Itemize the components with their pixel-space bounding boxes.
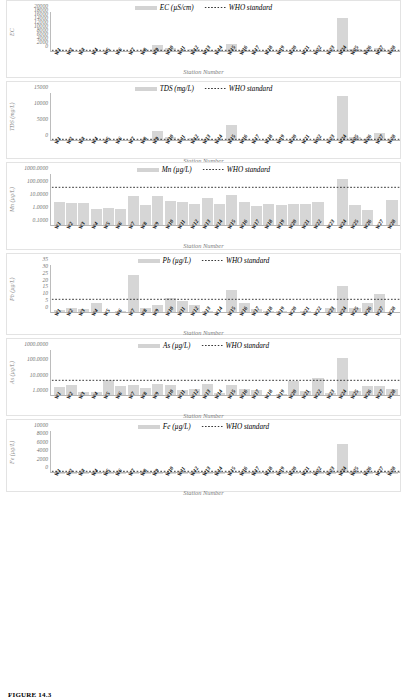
x-axis-title-ec: Station Number	[7, 59, 400, 75]
legend-entry-series: EC (µS/cm)	[135, 4, 194, 12]
legend-bar-swatch-icon	[138, 425, 160, 429]
y-tick-label: 6000	[37, 439, 48, 445]
y-tick-label: 0	[45, 464, 48, 470]
legend-dotted-line-icon	[201, 259, 223, 263]
y-tick-label: 4000	[37, 447, 48, 453]
x-label-spacer	[7, 226, 50, 233]
plot-canvas-as	[50, 350, 400, 396]
y-tick-label: 15000	[34, 84, 48, 90]
bar-group-mn	[51, 174, 400, 226]
x-label-spacer	[7, 313, 50, 320]
chart-legend-ec: EC (µS/cm)WHO standard	[7, 1, 400, 12]
y-tick-label: 35	[42, 256, 48, 262]
legend-entry-who: WHO standard	[201, 423, 269, 431]
legend-bar-swatch-icon	[135, 6, 157, 10]
y-tick-label: 0.1000	[33, 217, 48, 223]
x-axis-labels-pb: W1W2W3W4W5W6W7W8W9W10W11W12W13W14W15W16W…	[7, 313, 400, 320]
legend-entry-who: WHO standard	[202, 166, 270, 174]
legend-series-label: EC (µS/cm)	[160, 4, 194, 12]
y-axis-title-mn: Mn (µg/L)	[7, 174, 16, 226]
y-tick-label: 30	[42, 263, 48, 269]
legend-dotted-line-icon	[202, 168, 224, 172]
station-label-row: W1W2W3W4W5W6W7W8W9W10W11W12W13W14W15W16W…	[50, 226, 400, 233]
legend-who-label: WHO standard	[229, 85, 272, 93]
legend-bar-swatch-icon	[138, 344, 160, 348]
chart-panel-as: As (µg/L)WHO standardAs (µg/L)1.000010.0…	[6, 338, 401, 416]
y-axis-ticks-mn: 0.10001.000010.0000100.00001000.0000	[16, 174, 50, 226]
who-standard-line-pb	[51, 298, 400, 301]
chart-legend-fe: Fe (µg/L)WHO standard	[7, 420, 400, 431]
bar-group-pb	[51, 265, 400, 313]
legend-series-label: Pb (µg/L)	[163, 257, 191, 265]
x-axis-labels-as: W1W2W3W4W5W6W7W8W9W10W11W12W13W14W15W16W…	[7, 396, 400, 403]
legend-dotted-line-icon	[201, 344, 223, 348]
x-label-spacer	[7, 141, 50, 148]
y-tick-label: 1000.0000	[24, 165, 48, 171]
who-standard-line-mn	[51, 186, 400, 189]
legend-entry-who: WHO standard	[204, 4, 272, 12]
figure-page: EC (µS/cm)WHO standardEC0200040006000800…	[0, 0, 407, 697]
chart-legend-tds: TDS (mg/L)WHO standard	[7, 82, 400, 93]
bar-group-as	[51, 350, 400, 396]
station-label-row: W1W2W3W4W5W6W7W8W9W10W11W12W13W14W15W16W…	[50, 313, 400, 320]
y-tick-label: 10000	[34, 422, 48, 428]
y-axis-title-as: As (µg/L)	[7, 350, 16, 396]
legend-series-label: Fe (µg/L)	[163, 423, 191, 431]
legend-bar-swatch-icon	[135, 87, 157, 91]
y-tick-label: 0	[45, 304, 48, 310]
y-tick-label: 1.0000	[33, 387, 48, 393]
y-tick-label: 15	[42, 283, 48, 289]
legend-who-label: WHO standard	[229, 4, 272, 12]
legend-dotted-line-icon	[204, 87, 226, 91]
y-axis-ticks-fe: 0200040006000800010000	[16, 431, 50, 473]
y-axis-title-tds: TDS (mg/L)	[7, 93, 16, 141]
station-label-row: W1W2W3W4W5W6W7W8W9W10W11W12W13W14W15W16W…	[50, 141, 400, 148]
x-axis-title-pb: Station Number	[7, 320, 400, 336]
legend-series-label: As (µg/L)	[163, 342, 191, 350]
legend-entry-series: Mn (µg/L)	[137, 166, 192, 174]
y-tick-label: 5	[45, 297, 48, 303]
y-tick-label: 2000	[37, 456, 48, 462]
legend-dotted-line-icon	[204, 6, 226, 10]
chart-panel-list: EC (µS/cm)WHO standardEC0200040006000800…	[0, 0, 407, 492]
y-tick-label: 1000.0000	[24, 341, 48, 347]
legend-entry-series: Pb (µg/L)	[138, 257, 191, 265]
y-tick-label: 100.0000	[27, 178, 48, 184]
y-axis-title-fe: Fe (µg/L)	[7, 431, 16, 473]
station-label-row: W1W2W3W4W5W6W7W8W9W10W11W12W13W14W15W16W…	[50, 473, 400, 480]
y-axis-title-pb: Pb (µg/L)	[7, 265, 16, 313]
station-label-row: W1W2W3W4W5W6W7W8W9W10W11W12W13W14W15W16W…	[50, 52, 400, 59]
legend-bar-swatch-icon	[137, 168, 159, 172]
figure-caption: FIGURE 14.3	[8, 691, 51, 697]
y-tick-label: 100.0000	[27, 356, 48, 362]
x-axis-labels-mn: W1W2W3W4W5W6W7W8W9W10W11W12W13W14W15W16W…	[7, 226, 400, 233]
y-axis-ticks-tds: 050001000015000	[16, 93, 50, 141]
station-label-row: W1W2W3W4W5W6W7W8W9W10W11W12W13W14W15W16W…	[50, 396, 400, 403]
legend-entry-series: As (µg/L)	[138, 342, 191, 350]
plot-canvas-pb	[50, 265, 400, 313]
legend-dotted-line-icon	[201, 425, 223, 429]
y-tick-label: 10	[42, 290, 48, 296]
x-axis-labels-ec: W1W2W3W4W5W6W7W8W9W10W11W12W13W14W15W16W…	[7, 52, 400, 59]
y-axis-ticks-ec: 0200040006000800010000120001400016000180…	[16, 12, 50, 52]
chart-legend-pb: Pb (µg/L)WHO standard	[7, 254, 400, 265]
chart-legend-mn: Mn (µg/L)WHO standard	[7, 163, 400, 174]
legend-who-label: WHO standard	[226, 342, 269, 350]
y-axis-ticks-pb: 05101520253035	[16, 265, 50, 313]
x-label-spacer	[7, 396, 50, 403]
chart-panel-fe: Fe (µg/L)WHO standardFe (µg/L)0200040006…	[6, 419, 401, 492]
x-label-spacer	[7, 473, 50, 480]
legend-entry-who: WHO standard	[201, 342, 269, 350]
legend-who-label: WHO standard	[226, 423, 269, 431]
legend-entry-who: WHO standard	[201, 257, 269, 265]
y-tick-label: 20000	[34, 3, 48, 9]
y-tick-label: 5000	[37, 116, 48, 122]
legend-series-label: TDS (mg/L)	[160, 85, 194, 93]
legend-entry-series: TDS (mg/L)	[135, 85, 194, 93]
y-tick-label: 1.0000	[33, 204, 48, 210]
chart-legend-as: As (µg/L)WHO standard	[7, 339, 400, 350]
bar-group-tds	[51, 93, 400, 141]
legend-who-label: WHO standard	[227, 166, 270, 174]
y-tick-label: 25	[42, 270, 48, 276]
y-axis-title-ec: EC	[7, 12, 16, 52]
